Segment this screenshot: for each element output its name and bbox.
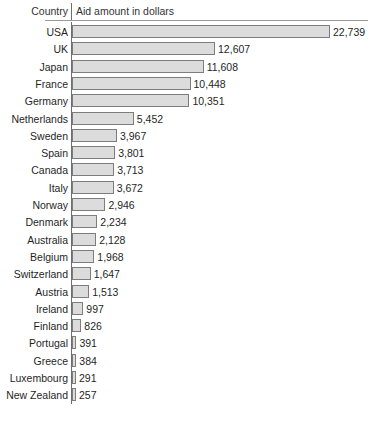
bar xyxy=(72,250,94,263)
bar-value-label: 2,946 xyxy=(108,196,134,214)
bar-row-category-label: Japan xyxy=(0,58,68,76)
column-header-country: Country xyxy=(0,3,68,19)
bar-row: New Zealand257 xyxy=(0,386,370,404)
bar-value-label: 5,452 xyxy=(137,110,163,128)
bar-row-category-label: France xyxy=(0,75,68,93)
bar-row-category-label: Ireland xyxy=(0,300,68,318)
bar-value-label: 384 xyxy=(79,352,97,370)
bar-row-category-label: Netherlands xyxy=(0,110,68,128)
bar-value-label: 1,647 xyxy=(94,265,120,283)
bar xyxy=(72,25,330,38)
bar-row: Belgium1,968 xyxy=(0,248,370,266)
bar-row: USA22,739 xyxy=(0,23,370,41)
bar-value-label: 257 xyxy=(79,386,97,404)
column-header-aid-amount: Aid amount in dollars xyxy=(76,3,174,19)
bar xyxy=(72,285,89,298)
bar-value-label: 3,672 xyxy=(117,179,143,197)
bar-row: Denmark2,234 xyxy=(0,213,370,231)
bar xyxy=(72,60,204,73)
chart-header: Country Aid amount in dollars xyxy=(0,3,370,19)
bar xyxy=(72,129,117,142)
bar xyxy=(72,146,115,159)
bar-row-category-label: Italy xyxy=(0,179,68,197)
bar-row: Ireland997 xyxy=(0,300,370,318)
bar-value-label: 2,234 xyxy=(100,213,126,231)
bar-row-category-label: Canada xyxy=(0,161,68,179)
bar xyxy=(72,336,76,349)
aid-amount-bar-chart: Country Aid amount in dollars USA22,739U… xyxy=(0,0,370,422)
bar xyxy=(72,233,96,246)
bar-row: Austria1,513 xyxy=(0,283,370,301)
bar-row-category-label: Portugal xyxy=(0,334,68,352)
bar-row-category-label: Norway xyxy=(0,196,68,214)
bar xyxy=(72,319,81,332)
bar xyxy=(72,388,76,401)
bar-value-label: 291 xyxy=(79,369,97,387)
bar-row: UK12,607 xyxy=(0,40,370,58)
bar-row: Canada3,713 xyxy=(0,161,370,179)
bar-row: Finland826 xyxy=(0,317,370,335)
bar-row: Greece384 xyxy=(0,352,370,370)
bar xyxy=(72,163,114,176)
bar-value-label: 2,128 xyxy=(99,231,125,249)
bar-value-label: 3,713 xyxy=(117,161,143,179)
bar-row-category-label: Spain xyxy=(0,144,68,162)
bar-value-label: 3,967 xyxy=(120,127,146,145)
bar-row: Japan11,608 xyxy=(0,58,370,76)
bar-row-category-label: Denmark xyxy=(0,213,68,231)
bar-row: Netherlands5,452 xyxy=(0,110,370,128)
bar-row: Switzerland1,647 xyxy=(0,265,370,283)
bar-row-category-label: UK xyxy=(0,40,68,58)
header-divider xyxy=(71,3,72,20)
bar xyxy=(72,198,105,211)
bar xyxy=(72,371,76,384)
bar-row: France10,448 xyxy=(0,75,370,93)
bar xyxy=(72,181,114,194)
bar-value-label: 10,351 xyxy=(192,92,224,110)
bar-row-category-label: Germany xyxy=(0,92,68,110)
bar-value-label: 1,968 xyxy=(97,248,123,266)
bar-row: Norway2,946 xyxy=(0,196,370,214)
bar-value-label: 391 xyxy=(79,334,97,352)
bar-value-label: 12,607 xyxy=(218,40,250,58)
bar xyxy=(72,215,97,228)
bar-row-category-label: Greece xyxy=(0,352,68,370)
bar-row-category-label: Finland xyxy=(0,317,68,335)
bar xyxy=(72,302,83,315)
bar-row-category-label: New Zealand xyxy=(0,386,68,404)
bar-value-label: 1,513 xyxy=(92,283,118,301)
bar-row: Australia2,128 xyxy=(0,231,370,249)
bar-row-category-label: USA xyxy=(0,23,68,41)
bar-value-label: 3,801 xyxy=(118,144,144,162)
bar-row-category-label: Sweden xyxy=(0,127,68,145)
bar-row-category-label: Austria xyxy=(0,283,68,301)
bar-row-category-label: Belgium xyxy=(0,248,68,266)
bar-row-category-label: Luxembourg xyxy=(0,369,68,387)
bar-row-category-label: Switzerland xyxy=(0,265,68,283)
bar-row: Italy3,672 xyxy=(0,179,370,197)
bar-value-label: 826 xyxy=(84,317,102,335)
header-rule xyxy=(45,20,368,21)
bar-row: Sweden3,967 xyxy=(0,127,370,145)
bar-row-category-label: Australia xyxy=(0,231,68,249)
bar-value-label: 997 xyxy=(86,300,104,318)
bar-value-label: 22,739 xyxy=(333,23,365,41)
bar xyxy=(72,267,91,280)
bar-row: Portugal391 xyxy=(0,334,370,352)
bar xyxy=(72,42,215,55)
bar xyxy=(72,112,134,125)
bar-row: Luxembourg291 xyxy=(0,369,370,387)
bar xyxy=(72,354,76,367)
bar-row: Spain3,801 xyxy=(0,144,370,162)
bar-value-label: 10,448 xyxy=(194,75,226,93)
bar xyxy=(72,94,189,107)
bar-value-label: 11,608 xyxy=(207,58,238,76)
bar-row: Germany10,351 xyxy=(0,92,370,110)
bar xyxy=(72,77,191,90)
